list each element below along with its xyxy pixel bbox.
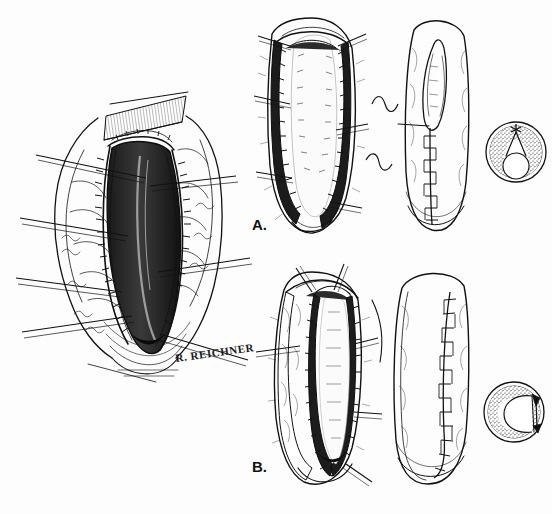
surgical-illustration-figure: R. REICHNER: [0, 0, 552, 514]
illustration-canvas: R. REICHNER: [0, 0, 552, 514]
panel-label-a: A.: [252, 216, 267, 233]
panel-B-cross-section: [484, 382, 544, 442]
panel-A-cross-section: [486, 122, 546, 182]
panel-label-b: B.: [252, 458, 267, 475]
cross-section-lumen: [503, 153, 529, 179]
